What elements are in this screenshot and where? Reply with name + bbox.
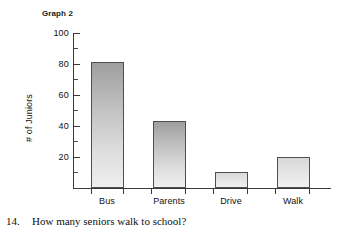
x-tick-3 xyxy=(185,189,186,194)
question-row: 14. How many seniors walk to school? xyxy=(6,215,338,227)
x-label-parents: Parents xyxy=(153,196,185,206)
bar-walk xyxy=(277,157,310,188)
y-tick-20: 20 xyxy=(74,157,80,158)
x-tick-4 xyxy=(213,189,214,194)
x-tick-0 xyxy=(91,189,92,194)
y-minor-tick-70 xyxy=(74,79,78,80)
bar-chart-figure: Graph 2 # of Juniors 100 80 60 40 20 xyxy=(0,0,344,212)
x-tick-1 xyxy=(123,189,124,194)
y-minor-tick-90 xyxy=(74,48,78,49)
x-tick-7 xyxy=(309,189,310,194)
x-label-drive: Drive xyxy=(220,196,242,206)
bar-bus xyxy=(91,62,124,188)
y-axis-label: # of Juniors xyxy=(24,72,36,164)
x-tick-6 xyxy=(275,189,276,194)
question-text: How many seniors walk to school? xyxy=(32,215,338,227)
chart-title: Graph 2 xyxy=(42,9,73,18)
y-tick-80: 80 xyxy=(74,64,80,65)
x-axis-line xyxy=(73,188,331,189)
y-minor-tick-50 xyxy=(74,110,78,111)
y-minor-tick-10 xyxy=(74,172,78,173)
y-tick-label-20: 20 xyxy=(59,152,69,162)
x-label-bus: Bus xyxy=(99,196,115,206)
question-number: 14. xyxy=(6,215,32,227)
bar-drive xyxy=(215,172,248,188)
x-tick-5 xyxy=(247,189,248,194)
y-tick-40: 40 xyxy=(74,126,80,127)
bar-parents xyxy=(153,121,186,188)
y-tick-label-40: 40 xyxy=(59,121,69,131)
y-tick-label-80: 80 xyxy=(59,59,69,69)
y-tick-label-60: 60 xyxy=(59,90,69,100)
y-tick-60: 60 xyxy=(74,95,80,96)
y-minor-tick-30 xyxy=(74,141,78,142)
x-label-walk: Walk xyxy=(283,196,303,206)
y-tick-label-100: 100 xyxy=(53,28,69,38)
x-tick-2 xyxy=(151,189,152,194)
worksheet-page: Graph 2 # of Juniors 100 80 60 40 20 xyxy=(0,0,344,236)
y-tick-100: 100 xyxy=(74,33,80,34)
plot-area: 100 80 60 40 20 xyxy=(73,33,331,188)
